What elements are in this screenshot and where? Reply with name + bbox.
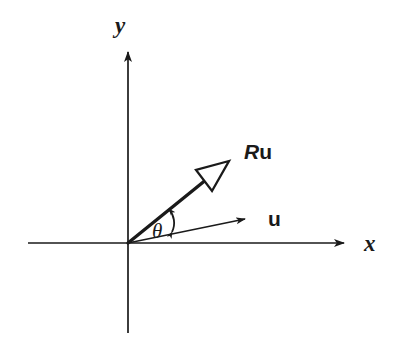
vector-ru-label-u: u	[259, 140, 272, 163]
vector-ru-shaft	[128, 179, 207, 243]
theta-arc-arrow	[169, 209, 174, 232]
vector-ru-label: Ru	[244, 140, 272, 163]
vector-ru-arrowhead	[196, 161, 229, 191]
vector-diagram-svg: y x u Ru θ	[0, 0, 398, 337]
x-axis-label: x	[363, 231, 376, 256]
vector-u-label-u: u	[268, 207, 281, 230]
theta-label: θ	[152, 219, 162, 243]
y-axis-label: y	[112, 13, 126, 38]
vector-u-shaft	[128, 219, 245, 243]
figure-canvas: y x u Ru θ	[0, 0, 398, 337]
vector-ru-label-r: R	[244, 140, 260, 163]
vector-u-label: u	[268, 207, 281, 230]
